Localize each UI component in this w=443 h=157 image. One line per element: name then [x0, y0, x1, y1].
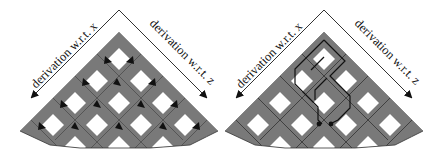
triangle-diagram-arrows: derivation w.r.t. x derivation w.r.t. z: [0, 0, 222, 157]
triangle-diagram-path: derivation w.r.t. x derivation w.r.t. z: [205, 0, 443, 157]
diagram-left: derivation w.r.t. x derivation w.r.t. z: [0, 0, 222, 157]
diagram-right: derivation w.r.t. x derivation w.r.t. z: [205, 0, 427, 157]
